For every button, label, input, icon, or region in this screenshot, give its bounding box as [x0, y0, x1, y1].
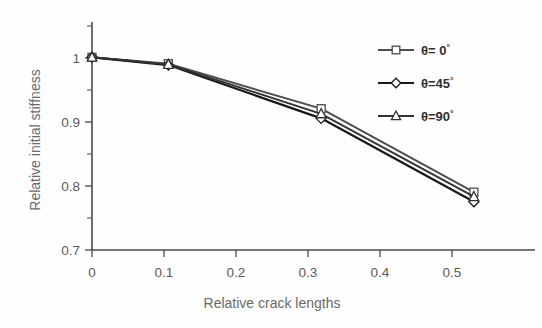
y-tick-label: 1	[72, 51, 80, 66]
chart-figure: 0.7 0.8 0.9 1 0 0.1 0.2 0.3 0.4 0.5 Rela…	[0, 0, 542, 328]
x-axis-ticks	[92, 250, 452, 257]
x-tick-label: 0.2	[227, 265, 246, 280]
y-axis-title: Relative initial stiffness	[27, 69, 43, 210]
degree-symbol: °	[450, 75, 454, 85]
legend-label: θ=90°	[421, 108, 454, 124]
x-tick-label: 0.4	[371, 265, 390, 280]
legend-label: θ= 0°	[421, 42, 450, 58]
series-2	[87, 52, 478, 200]
x-axis-tick-labels: 0 0.1 0.2 0.3 0.4 0.5	[88, 265, 461, 280]
legend-item-0[interactable]: θ= 0°	[378, 42, 450, 58]
x-tick-label: 0.5	[443, 265, 462, 280]
y-tick-label: 0.7	[61, 243, 80, 258]
y-tick-label: 0.9	[61, 115, 80, 130]
series-line	[92, 57, 474, 196]
diamond-marker	[391, 78, 401, 88]
axes-group	[92, 22, 535, 250]
series-line	[92, 57, 474, 192]
x-tick-label: 0.1	[155, 265, 174, 280]
series-0	[88, 53, 478, 196]
y-tick-label: 0.8	[61, 179, 80, 194]
series-line	[92, 57, 474, 202]
y-axis-tick-labels: 0.7 0.8 0.9 1	[61, 51, 80, 258]
legend-item-2[interactable]: θ=90°	[378, 108, 454, 124]
x-axis-title: Relative crack lengths	[204, 295, 341, 311]
legend-item-1[interactable]: θ=45°	[378, 75, 454, 91]
x-tick-label: 0	[88, 265, 96, 280]
degree-symbol: °	[450, 108, 454, 118]
x-tick-label: 0.3	[299, 265, 318, 280]
line-chart: 0.7 0.8 0.9 1 0 0.1 0.2 0.3 0.4 0.5 Rela…	[0, 0, 542, 328]
legend-label: θ=45°	[421, 75, 454, 91]
chart-legend: θ= 0°θ=45°θ=90°	[378, 42, 454, 124]
square-marker	[392, 46, 400, 54]
degree-symbol: °	[446, 42, 450, 52]
